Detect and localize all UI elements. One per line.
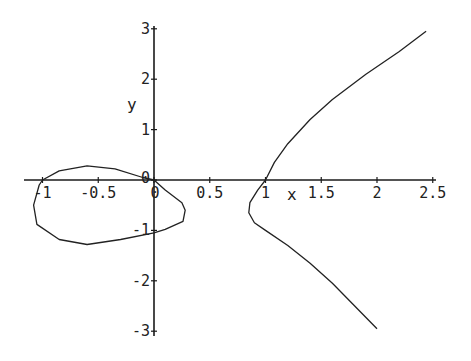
x-tick-label: 1.5	[308, 184, 335, 202]
elliptic-curve-plot: -1-0.500.511.522.5 3210-1-2-3 x y	[0, 0, 471, 361]
x-tick-label: -0.5	[80, 184, 116, 202]
x-tick-label: 2.5	[419, 184, 446, 202]
x-tick-label: 0.5	[196, 184, 223, 202]
y-axis-label: y	[127, 95, 137, 114]
x-tick-label: 1	[261, 184, 270, 202]
x-tick-label: 0	[150, 184, 159, 202]
curve-left-oval	[34, 166, 186, 245]
x-tick-label: -1	[33, 184, 51, 202]
y-tick-label: -2	[132, 272, 150, 290]
x-axis-label: x	[287, 185, 297, 204]
y-tick-label: -3	[132, 322, 150, 340]
y-tick-label: 1	[141, 121, 150, 139]
y-tick-label: 2	[141, 70, 150, 88]
x-tick-label: 2	[372, 184, 381, 202]
y-tick-label: 3	[141, 20, 150, 38]
